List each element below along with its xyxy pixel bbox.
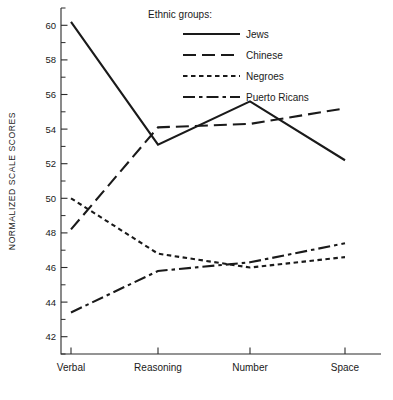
axes: 42444648505254565860VerbalReasoningNumbe… (45, 8, 381, 373)
y-tick-label: 56 (45, 89, 56, 100)
y-tick-label: 58 (45, 54, 56, 65)
y-axis-title-text: NORMALIZED SCALE SCORES (7, 112, 17, 250)
legend-label-jews: Jews (246, 29, 269, 40)
x-tick-label: Verbal (57, 362, 85, 373)
y-tick-label: 46 (45, 262, 56, 273)
x-tick-label: Space (331, 362, 360, 373)
y-tick-label: 44 (45, 297, 56, 308)
series-lines (71, 22, 345, 313)
legend-label-negroes: Negroes (246, 71, 284, 82)
y-tick-label: 54 (45, 124, 56, 135)
y-tick-label: 50 (45, 193, 56, 204)
y-tick-label: 60 (45, 20, 56, 31)
y-tick-label: 52 (45, 158, 56, 169)
legend: Ethnic groups:JewsChineseNegroesPuerto R… (148, 9, 309, 103)
axis-frame (61, 8, 381, 354)
chart-container: Ethnic groups:JewsChineseNegroesPuerto R… (0, 0, 393, 400)
y-axis-title: NORMALIZED SCALE SCORES (7, 112, 17, 250)
y-tick-label: 42 (45, 331, 56, 342)
legend-title: Ethnic groups: (148, 9, 212, 20)
y-tick-label: 48 (45, 227, 56, 238)
series-line-negroes (71, 198, 345, 267)
line-chart: Ethnic groups:JewsChineseNegroesPuerto R… (0, 0, 393, 400)
x-tick-label: Number (232, 362, 268, 373)
x-tick-label: Reasoning (134, 362, 182, 373)
legend-label-puerto-ricans: Puerto Ricans (246, 92, 309, 103)
legend-label-chinese: Chinese (246, 50, 283, 61)
series-line-chinese (71, 108, 345, 229)
series-line-puerto-ricans (71, 243, 345, 312)
